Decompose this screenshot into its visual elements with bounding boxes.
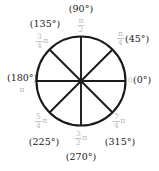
pi-symbol-315: π xyxy=(120,117,125,125)
pi-symbol-225: π xyxy=(42,117,47,125)
angle-label-315-radians: 7 4 π xyxy=(113,113,125,129)
angle-label-0-degrees: (0°) xyxy=(133,75,151,85)
angle-label-225-degrees: (225°) xyxy=(29,137,59,147)
fraction-pi-over-4: π 4 xyxy=(117,30,124,46)
unit-circle-figure: (90°) π 2 π 4 (45°) (135°) 3 4 π (180°) … xyxy=(0,0,159,171)
fraction-pi-over-2: π 2 xyxy=(78,17,85,33)
angle-label-315-degrees: (315°) xyxy=(105,137,135,147)
pi-symbol-270: π xyxy=(82,134,87,142)
fraction-3-over-2: 3 2 xyxy=(75,130,82,146)
angle-label-45-degrees: (45°) xyxy=(125,34,149,44)
fraction-3-over-4: 3 4 xyxy=(36,33,43,49)
pi-symbol-180: π xyxy=(20,85,25,94)
angle-label-180-degrees: (180°) xyxy=(7,73,37,83)
angle-label-270-radians: 3 2 π xyxy=(75,130,87,146)
angle-label-270-degrees: (270°) xyxy=(66,152,96,162)
angle-label-90-radians: π 2 xyxy=(78,17,85,33)
angle-label-45-radians: π 4 xyxy=(117,30,124,46)
angle-label-90-degrees: (90°) xyxy=(69,4,93,14)
fraction-7-over-4: 7 4 xyxy=(113,113,120,129)
angle-label-135-degrees: (135°) xyxy=(30,19,60,29)
angle-label-225-radians: 5 4 π xyxy=(35,113,47,129)
fraction-5-over-4: 5 4 xyxy=(35,113,42,129)
angle-label-135-radians: 3 4 π xyxy=(36,33,48,49)
angle-label-180-radians: π xyxy=(20,86,25,94)
pi-symbol-135: π xyxy=(43,37,48,45)
